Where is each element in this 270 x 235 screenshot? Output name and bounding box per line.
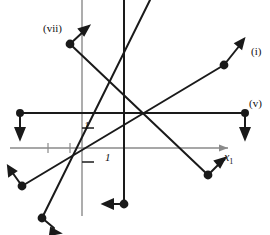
vector-diagram-figure: (i) (v) (vii) 1 1 x1 (0, 0, 270, 235)
vector-i-shaft (224, 45, 240, 65)
vector-v-left-arrowhead (16, 128, 25, 139)
vector-steep-shaft (42, 218, 54, 228)
label-i: (i) (251, 45, 261, 57)
vector-i-arrowhead (236, 39, 245, 49)
vector-lines (8, 0, 250, 235)
label-vii: (vii) (43, 22, 62, 34)
vector-i-tail-shaft (12, 172, 22, 186)
vector-steep-arrowhead (50, 228, 60, 235)
vector-vii-line (70, 44, 208, 175)
x-axis-label: x1 (224, 150, 233, 166)
x-axis-tick-label: 1 (105, 151, 111, 163)
label-v: (v) (249, 97, 262, 109)
plot-canvas (0, 0, 270, 235)
vector-v-right-arrowhead (241, 128, 250, 139)
y-axis-tick-label: 1 (84, 119, 90, 131)
x-axis-label-subscript: 1 (229, 157, 233, 166)
vector-vertical-arrowhead (103, 200, 113, 209)
